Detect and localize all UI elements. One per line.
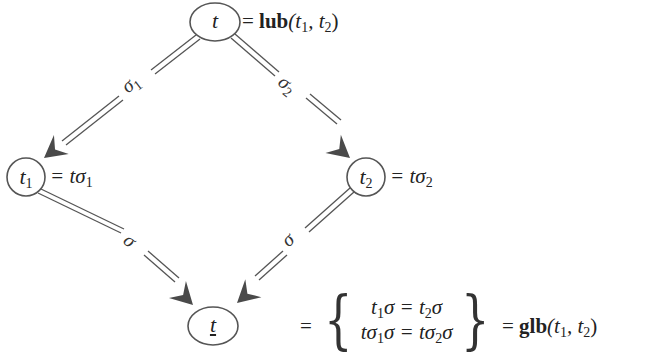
lub-args-mid: , t [308, 9, 324, 33]
constraint-row-2: tσ1σ = tσ2σ [361, 321, 453, 344]
glb-function: glb [519, 314, 547, 338]
glb-args-close: ) [590, 314, 597, 338]
constraint-rows: t1σ = t2σ tσ1σ = tσ2σ [359, 296, 455, 344]
glb-eq-sign: = [502, 314, 514, 338]
row1-b: σ = t [384, 295, 425, 319]
left-annotation-sub: 1 [86, 175, 93, 190]
left-annotation-text: = tσ [50, 164, 86, 188]
node-top-label: t [200, 8, 230, 34]
row2-a: tσ [361, 320, 377, 344]
constraint-set: { t1σ = t2σ tσ1σ = tσ2σ } [318, 288, 495, 352]
node-bottom-text: t [210, 312, 216, 337]
node-left-annotation: = tσ1 [50, 166, 93, 187]
edge-left-to-bottom [38, 189, 179, 282]
row2-c: σ [442, 320, 452, 344]
node-left-label: t1 [9, 164, 43, 190]
glb-args-open: (t [547, 314, 560, 338]
right-brace: } [461, 288, 490, 352]
edge-right-to-bottom [255, 188, 354, 280]
node-right-label: t2 [349, 164, 383, 190]
lub-args-close: ) [331, 9, 338, 33]
node-right-annotation: = tσ2 [390, 166, 433, 187]
glb-annotation: = glb(t1, t2) [502, 316, 597, 337]
node-bottom-label: t [198, 312, 228, 338]
row1-b-sub: 2 [425, 306, 432, 321]
lub-function: lub [259, 9, 288, 33]
row2-a-sub: 1 [377, 331, 384, 346]
arrowhead-bottom-left [169, 281, 202, 314]
right-annotation-text: = tσ [390, 164, 426, 188]
glb-sub1: 1 [560, 325, 567, 340]
arrowhead-bottom-right [229, 279, 261, 312]
glb-args-mid: , t [567, 314, 583, 338]
lub-args-open: (t [288, 9, 301, 33]
row2-b: σ = tσ [384, 320, 435, 344]
node-left-sub: 1 [26, 176, 33, 191]
node-top-annotation: = lub(t1, t2) [242, 11, 338, 32]
bottom-eq-sign: = [300, 316, 312, 337]
node-top-text: t [212, 8, 218, 33]
eq-sign: = [242, 9, 254, 33]
right-annotation-sub: 2 [426, 175, 433, 190]
row1-c: σ [432, 295, 442, 319]
bottom-eq-text: = [300, 314, 312, 338]
row1-a-sub: 1 [377, 306, 384, 321]
left-brace: { [324, 288, 353, 352]
node-right-sub: 2 [366, 176, 373, 191]
constraint-row-1: t1σ = t2σ [371, 296, 442, 319]
